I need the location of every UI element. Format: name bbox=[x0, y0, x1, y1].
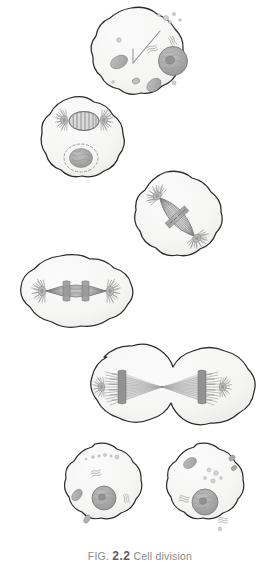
nucleus bbox=[92, 486, 116, 510]
figure-caption-prefix: FIG. bbox=[88, 550, 109, 562]
figure-caption-number: 2.2 bbox=[112, 550, 130, 562]
nucleus bbox=[159, 47, 188, 76]
nucleus bbox=[192, 489, 218, 515]
spindle-forming bbox=[69, 112, 99, 131]
figure-caption-title: Cell division bbox=[134, 550, 193, 562]
figure-caption: FIG. 2.2 Cell division bbox=[0, 550, 280, 562]
cell-division-illustration bbox=[0, 0, 280, 562]
figure-container: FIG. 2.2 Cell division bbox=[0, 0, 280, 562]
